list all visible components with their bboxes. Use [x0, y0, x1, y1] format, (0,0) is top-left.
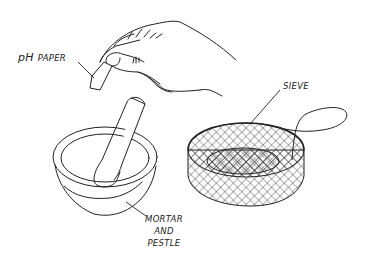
ph-paper-leader-line — [78, 62, 94, 78]
ph-paper-label: pH Paper — [18, 52, 66, 63]
mortar-label-line-1: Mortar — [145, 213, 183, 225]
ph-paper-label-prefix: pH — [18, 51, 34, 64]
sieve-label: Sieve — [283, 80, 309, 91]
mortar-label-line-2: and — [145, 225, 183, 237]
sieve-leader-line — [250, 90, 280, 124]
ph-paper-strip-icon — [90, 62, 112, 90]
mortar-label-line-3: Pestle — [145, 237, 183, 249]
mortar-and-pestle-icon — [53, 97, 157, 215]
hand-icon — [100, 21, 236, 96]
illustration-canvas — [0, 0, 366, 268]
sieve-icon — [188, 108, 347, 206]
mortar-and-pestle-label: Mortar and Pestle — [145, 213, 183, 249]
ph-paper-label-rest: Paper — [38, 53, 66, 63]
sieve-label-text: Sieve — [283, 81, 309, 91]
lab-equipment-illustration: pH Paper Sieve Mortar and Pestle — [0, 0, 366, 268]
